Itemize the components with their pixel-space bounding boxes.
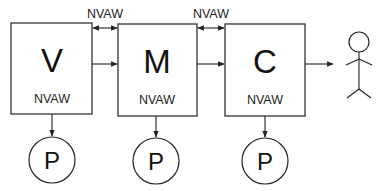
box-c-letter: C: [253, 43, 277, 80]
connector-m-c: NVAW: [193, 7, 229, 64]
box-v-label: NVAW: [34, 92, 70, 106]
stick-figure-icon: [346, 32, 372, 98]
box-m-letter: M: [143, 43, 171, 80]
persistence-node-c: P: [242, 116, 288, 184]
persistence-node-m: P: [133, 116, 179, 184]
persistence-node-v: P: [29, 114, 75, 183]
box-v: V NVAW: [11, 23, 92, 114]
mvc-diagram: V NVAW M NVAW C NVAW NVAW NVAW: [0, 0, 379, 191]
persistence-node-v-label: P: [44, 147, 60, 174]
connector-v-m-label: NVAW: [87, 7, 123, 21]
box-c-label: NVAW: [247, 93, 283, 107]
box-m: M NVAW: [118, 24, 197, 116]
persistence-node-m-label: P: [148, 148, 164, 175]
box-v-letter: V: [41, 42, 63, 79]
connector-m-c-label: NVAW: [193, 7, 229, 21]
box-c: C NVAW: [225, 24, 305, 116]
persistence-node-c-label: P: [257, 148, 273, 175]
box-m-label: NVAW: [139, 93, 175, 107]
